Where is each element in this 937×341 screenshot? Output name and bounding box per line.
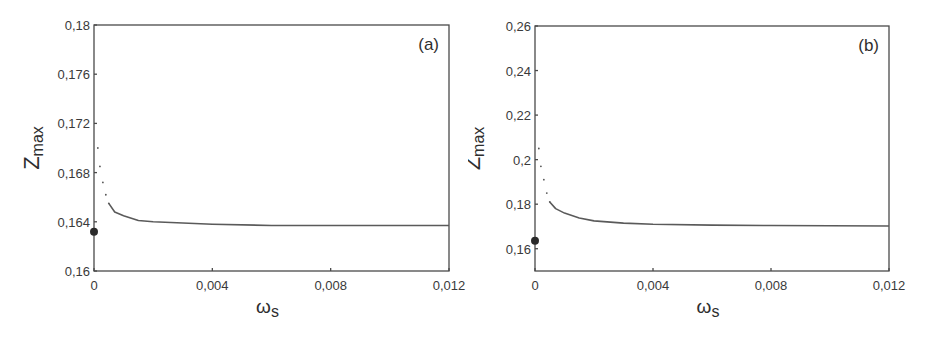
x-tick-label: 0 xyxy=(90,278,97,293)
chart-panel-a: 0,160,1640,1680,1720,1760,1800,0040,0080… xyxy=(0,0,468,341)
x-axis-title: ωs xyxy=(256,296,279,320)
x-tick-label: 0,004 xyxy=(196,278,229,293)
y-tick-label: 0,2 xyxy=(513,153,531,168)
x-tick-label: 0,008 xyxy=(314,278,347,293)
x-tick-label: 0,012 xyxy=(433,278,466,293)
plot-frame xyxy=(94,25,449,271)
y-tick-label: 0,18 xyxy=(506,197,531,212)
chart-panel-b: 0,160,180,20,220,240,2600,0040,0080,012ω… xyxy=(468,0,936,341)
y-tick-label: 0,16 xyxy=(506,242,531,257)
zero-frequency-marker xyxy=(531,237,539,245)
y-tick-label: 0,172 xyxy=(57,116,90,131)
y-tick-label: 0,18 xyxy=(65,18,90,33)
plot-a-svg: 0,160,1640,1680,1720,1760,1800,0040,0080… xyxy=(0,0,468,341)
y-tick-label: 0,24 xyxy=(506,64,531,79)
x-tick-label: 0,008 xyxy=(755,278,788,293)
curve-dot xyxy=(99,166,101,168)
panel-label: (a) xyxy=(418,35,439,54)
y-tick-label: 0,16 xyxy=(65,264,90,279)
x-tick-label: 0,012 xyxy=(873,278,906,293)
panel-label: (b) xyxy=(858,36,879,55)
y-axis-title: Zmax xyxy=(468,127,487,171)
curve-dot xyxy=(105,194,107,196)
y-tick-label: 0,176 xyxy=(57,67,90,82)
plot-frame xyxy=(535,26,889,271)
zero-frequency-marker xyxy=(90,228,98,236)
curve-dot xyxy=(538,148,540,150)
curve-dot xyxy=(102,182,104,184)
curve-line xyxy=(550,202,889,226)
curve-dot xyxy=(546,192,548,194)
x-axis-title: ωs xyxy=(697,296,720,320)
curve-dot xyxy=(543,179,545,181)
y-tick-label: 0,22 xyxy=(506,108,531,123)
y-tick-label: 0,26 xyxy=(506,19,531,34)
y-axis-title: Zmax xyxy=(19,126,46,170)
x-tick-label: 0,004 xyxy=(637,278,670,293)
curve-dot xyxy=(540,165,542,167)
curve-line xyxy=(109,203,449,225)
plot-b-svg: 0,160,180,20,220,240,2600,0040,0080,012ω… xyxy=(468,0,936,341)
curve-dot xyxy=(97,147,99,149)
y-tick-label: 0,168 xyxy=(57,166,90,181)
x-tick-label: 0 xyxy=(531,278,538,293)
y-tick-label: 0,164 xyxy=(57,215,90,230)
